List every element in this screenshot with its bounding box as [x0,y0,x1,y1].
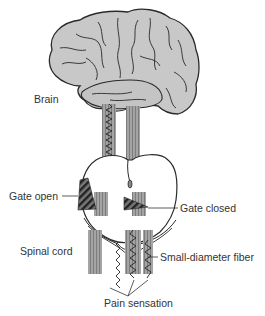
right-fiber-bundle [126,106,140,162]
spinal-cord-label: Spinal cord [20,246,73,257]
pain-sensation-label: Pain sensation [104,298,173,309]
gate-control-diagram [0,0,265,316]
pain-pointer-lines [110,280,148,296]
brain-label: Brain [34,94,59,105]
brain-illustration [49,9,199,114]
gate-open-label: Gate open [9,191,58,202]
small-fiber-label: Small-diameter fiber [160,252,254,263]
gate-closed-label: Gate closed [180,203,236,214]
